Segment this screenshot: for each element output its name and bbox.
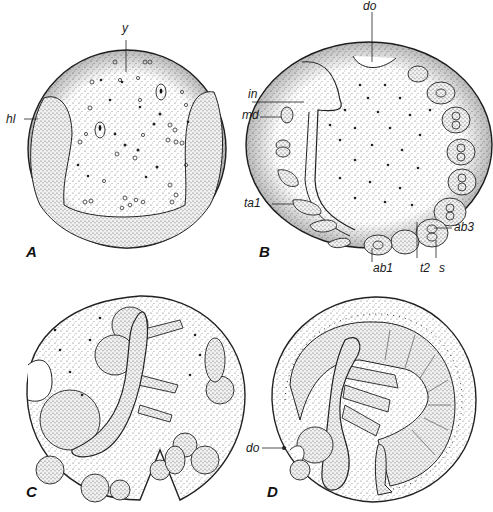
embryo-illustrations — [0, 0, 493, 512]
label-b-mandible: md — [242, 109, 259, 121]
label-b-t2: t2 — [420, 262, 430, 274]
panel-letter-b: B — [259, 244, 270, 259]
label-b-s: s — [439, 262, 445, 274]
label-d-dorsal-organ: do — [246, 442, 259, 454]
panel-letter-d: D — [267, 484, 278, 499]
label-b-intercalary: in — [248, 88, 257, 100]
panel-letter-c: C — [26, 484, 37, 499]
label-a-yolk: y — [122, 22, 128, 34]
label-b-ab3: ab3 — [454, 221, 474, 233]
figure-canvas: y hl A do in md ta1 ab1 t2 s ab3 B C do … — [0, 0, 493, 512]
label-b-ab1: ab1 — [373, 262, 393, 274]
panel-letter-a: A — [26, 244, 37, 259]
label-b-dorsal-organ: do — [363, 0, 376, 12]
panel-d-embryo — [262, 297, 476, 502]
label-a-head-lobe: hl — [6, 113, 15, 125]
label-b-ta1: ta1 — [244, 197, 261, 209]
panel-a-embryo — [24, 40, 226, 248]
panel-c-embryo — [27, 296, 245, 502]
